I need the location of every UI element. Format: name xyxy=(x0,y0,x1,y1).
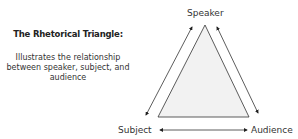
rhetorical-triangle-diagram xyxy=(0,0,298,139)
center-triangle xyxy=(158,25,249,117)
subject-label: Subject xyxy=(118,125,152,135)
audience-label: Audience xyxy=(251,125,293,135)
speaker-label: Speaker xyxy=(187,8,224,18)
